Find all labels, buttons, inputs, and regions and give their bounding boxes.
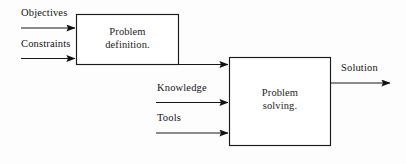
box-problem-solving — [230, 58, 331, 146]
input-label-objectives: Objectives — [21, 7, 67, 19]
input-label-knowledge: Knowledge — [157, 82, 207, 94]
diagram-canvas: Problem definition. Problem solving. Obj… — [0, 0, 406, 164]
output-label-solution: Solution — [341, 62, 378, 74]
input-label-tools: Tools — [157, 112, 181, 124]
input-label-constraints: Constraints — [21, 38, 71, 50]
box-problem-definition — [77, 15, 179, 65]
